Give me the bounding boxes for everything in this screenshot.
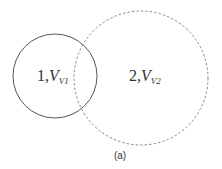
venn-diagram: 1,VV1 2,VV2 (a) [0,0,222,169]
region-2-label: 2,VV2 [129,67,161,86]
figure-caption: (a) [114,150,126,161]
region-1-label: 1,VV1 [37,67,69,86]
